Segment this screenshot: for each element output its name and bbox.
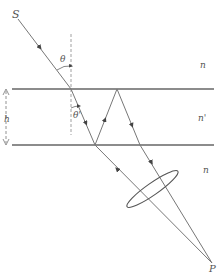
transmitted-ray-2: [140, 145, 212, 263]
thickness-label: h: [4, 114, 10, 124]
reflected-ray-up: [95, 89, 117, 145]
reflected-ray-down: [117, 89, 140, 145]
theta-arc: [57, 66, 71, 70]
optics-diagram: h S θ θ' n n' n P: [0, 0, 220, 278]
theta-prime-arc: [71, 106, 79, 108]
arrow-icon: [104, 120, 105, 123]
theta-prime-label: θ': [73, 110, 81, 120]
arrow-icon: [131, 123, 132, 125]
theta-label: θ: [60, 54, 66, 64]
point-p-label: P: [208, 263, 216, 274]
transmitted-ray-1: [95, 145, 212, 263]
source-label: S: [12, 8, 20, 21]
n-top-label: n: [200, 60, 206, 70]
n-middle-label: n': [198, 113, 206, 123]
n-bottom-label: n: [203, 165, 209, 175]
lens: [124, 166, 182, 211]
